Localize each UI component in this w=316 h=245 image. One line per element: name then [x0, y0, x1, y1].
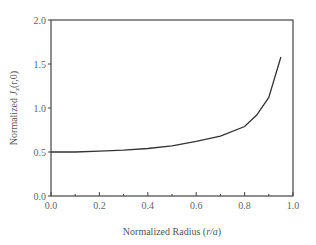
x-axis-title: Normalized Radius (r/a): [123, 226, 221, 238]
y-axis: 0.00.51.01.52.0: [34, 15, 52, 202]
y-tick-label: 0.5: [34, 147, 47, 158]
y-tick-label: 0.0: [34, 191, 47, 202]
x-axis: 0.00.20.40.60.81.0: [45, 192, 300, 211]
plot-frame: [51, 20, 293, 196]
y-tick-label: 1.5: [34, 59, 47, 70]
x-tick-label: 0.2: [93, 200, 106, 211]
y-tick-label: 1.0: [34, 103, 47, 114]
y-tick-label: 2.0: [34, 15, 47, 26]
x-tick-label: 0.6: [190, 200, 203, 211]
x-tick-label: 0.8: [238, 200, 251, 211]
chart: 0.00.20.40.60.81.0 0.00.51.01.52.0 Norma…: [0, 0, 316, 245]
y-axis-title: Normalized Jz(r,0): [8, 71, 21, 145]
x-tick-label: 1.0: [287, 200, 300, 211]
data-line: [51, 57, 281, 152]
x-tick-label: 0.0: [45, 200, 58, 211]
x-tick-label: 0.4: [142, 200, 155, 211]
